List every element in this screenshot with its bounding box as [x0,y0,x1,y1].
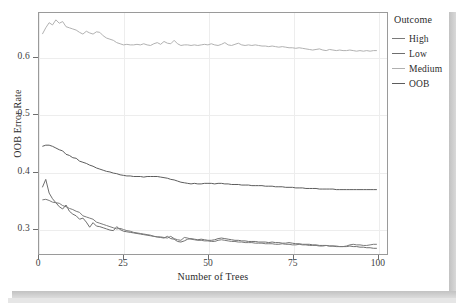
y-tick-label-0.6: 0.6 [2,51,30,61]
legend-item-oob[interactable]: OOB [392,76,450,91]
legend-swatch-high-icon [392,38,405,39]
figure-shadow-bottom-outer [8,298,456,303]
legend: Outcome HighLowMediumOOB [392,14,450,91]
x-tick-mark-1 [123,255,124,260]
legend-label-low: Low [409,49,427,59]
series-lines [39,13,387,254]
legend-swatch-low-icon [392,53,405,54]
x-tick-mark-3 [293,255,294,260]
x-tick-mark-2 [208,255,209,260]
y-tick-label-0.4: 0.4 [2,166,30,176]
plot-panel [38,12,388,255]
legend-title: Outcome [392,14,450,25]
legend-item-medium[interactable]: Medium [392,61,450,76]
legend-items: HighLowMediumOOB [392,31,450,91]
figure-shadow-bottom [12,291,456,298]
legend-label-high: High [409,34,429,44]
figure-shadow-right [449,12,456,294]
legend-label-medium: Medium [409,64,442,74]
series-line-oob [42,145,376,189]
series-line-low [42,179,376,248]
x-tick-mark-0 [38,255,39,260]
x-tick-mark-4 [378,255,379,260]
legend-item-high[interactable]: High [392,31,450,46]
y-tick-label-0.3: 0.3 [2,223,30,233]
series-line-medium [42,20,376,51]
legend-swatch-oob-icon [392,83,405,84]
y-tick-label-0.5: 0.5 [2,108,30,118]
legend-swatch-medium-icon [392,68,405,69]
legend-label-oob: OOB [409,79,430,89]
legend-item-low[interactable]: Low [392,46,450,61]
chart-figure: OOB Error Rate 0.30.40.50.6 0255075100 N… [0,0,460,306]
x-axis-title: Number of Trees [38,271,388,282]
